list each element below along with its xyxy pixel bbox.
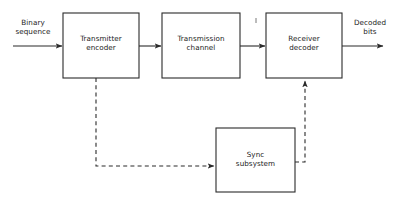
block-transmitter-encoder — [63, 13, 139, 78]
block-transmission-channel — [162, 13, 240, 78]
label-decoded-bits: Decoded bits — [348, 18, 392, 37]
block-diagram: Transmitter encoder Transmission channel… — [0, 0, 394, 208]
block-sync-subsystem — [216, 128, 295, 192]
connector-sync-to-decoder — [295, 81, 305, 162]
block-receiver-decoder — [266, 13, 342, 78]
connector-encoder-to-sync — [96, 78, 214, 166]
diagram-canvas — [0, 0, 394, 208]
label-binary-sequence: Binary sequence — [8, 18, 58, 37]
